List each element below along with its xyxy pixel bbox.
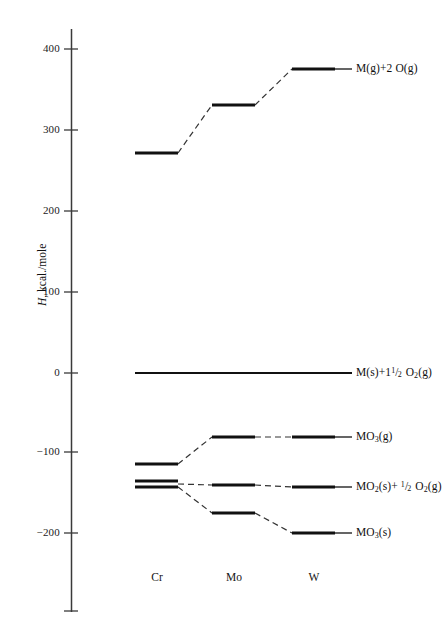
- connector-mo-w-mo2s: [255, 485, 292, 487]
- y-tick-label-200: 200: [20, 204, 60, 216]
- x-axis-label-cr: Cr: [132, 571, 182, 583]
- plot-canvas: [0, 0, 443, 642]
- level-label-m-g-2-o-g: M(g)+2 O(g): [356, 62, 418, 74]
- series-mo3-g: [135, 437, 352, 464]
- level-label-mo3-s: MO3(s): [356, 526, 391, 540]
- level-label-mo3-g: MO3(g): [356, 430, 393, 444]
- y-axis-title-symbol: H: [36, 298, 48, 306]
- y-tick-label-minus-100: −100: [10, 445, 60, 457]
- level-label-mo3g-tail: (g): [379, 430, 393, 442]
- y-axis-title-units: , kcal./mole: [36, 244, 48, 298]
- fraction-one-half-a: 1/2: [391, 367, 403, 379]
- connector-cr-mo-mo3s: [178, 487, 212, 513]
- y-axis-title: H, kcal./mole: [36, 244, 48, 306]
- level-label-mo2s-prefix: MO: [356, 480, 375, 492]
- level-label-mo2-s-o2-g: MO2(s)+ 1/2 O2(g): [356, 480, 442, 494]
- level-label-mo3g-prefix: MO: [356, 430, 375, 442]
- energy-level-diagram-figure: 400 300 200 100 0 −100 −200 H, kcal./mol…: [0, 0, 443, 642]
- connector-cr-mo-mo3g: [178, 437, 212, 464]
- x-axis-label-mo: Mo: [209, 571, 259, 583]
- level-label-mo2s-tail: (g): [428, 480, 442, 492]
- x-axis-label-w: W: [289, 571, 339, 583]
- series-mo3-s: [135, 487, 352, 533]
- y-tick-label-minus-200: −200: [10, 526, 60, 538]
- level-label-mo2s-mid: (s)+: [379, 480, 401, 492]
- series-m-g-2-o-g: [135, 69, 352, 153]
- level-label-m-s-o: O: [403, 366, 414, 378]
- connector-cr-mo-mg2og: [178, 105, 212, 153]
- y-tick-label-400: 400: [20, 42, 60, 54]
- y-tick-label-0: 0: [20, 366, 60, 378]
- level-label-mo3s-prefix: MO: [356, 526, 375, 538]
- connector-cr-mo-mo2s: [178, 484, 212, 485]
- connector-mo-w-mg2og: [255, 69, 292, 105]
- fraction-one-half-b: 1/2: [401, 481, 413, 493]
- level-label-m-s-prefix: M(s)+1: [356, 366, 391, 378]
- level-label-mo3s-tail: (s): [379, 526, 391, 538]
- connector-mo-w-mo3s: [255, 513, 292, 533]
- level-label-m-s-tail: (g): [418, 366, 432, 378]
- y-tick-label-300: 300: [20, 123, 60, 135]
- level-label-m-s-o2-g: M(s)+11/2 O2(g): [356, 366, 432, 380]
- level-label-mo2s-o: O: [412, 480, 423, 492]
